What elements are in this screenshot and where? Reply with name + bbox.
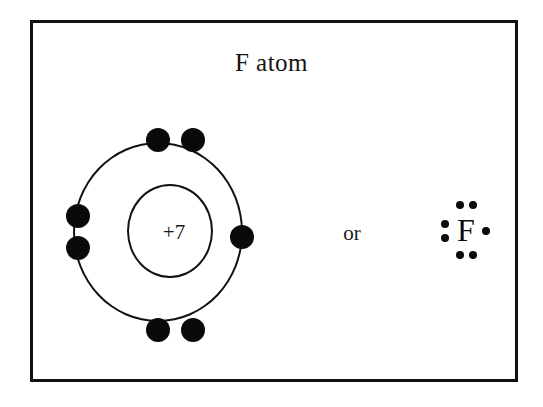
lewis-dot-bottom-b-icon [469,251,477,259]
or-connector-label: or [322,221,382,245]
figure-title: F atom [0,48,543,78]
nucleus-charge-label: +7 [163,222,185,243]
nucleus-circle: +7 [127,184,213,278]
bohr-model-diagram: +7 [58,132,258,332]
lewis-dot-left-a-icon [441,220,449,228]
figure-canvas: F atom +7 or F [0,0,543,407]
electron-right-icon [230,225,254,249]
electron-top-left-icon [146,128,170,152]
electron-bottom-right-icon [181,318,205,342]
lewis-element-symbol: F [454,213,478,247]
lewis-dot-structure: F [432,196,498,266]
lewis-dot-right-a-icon [482,227,490,235]
electron-left-upper-icon [66,204,90,228]
lewis-dot-top-b-icon [469,201,477,209]
lewis-dot-top-a-icon [456,201,464,209]
electron-top-right-icon [181,128,205,152]
electron-left-lower-icon [66,236,90,260]
lewis-dot-left-b-icon [441,234,449,242]
lewis-dot-bottom-a-icon [456,251,464,259]
electron-bottom-left-icon [146,318,170,342]
